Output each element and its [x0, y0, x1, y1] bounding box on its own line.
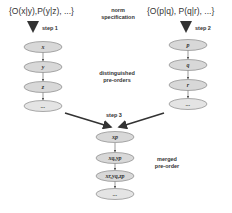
merged-node-ellipsis: ...: [96, 189, 134, 200]
right-preorder-chain: p q r ...: [169, 40, 207, 110]
merged-preorder-chain: xp xq,yp xr,yq,zp ...: [96, 132, 134, 200]
right-node-r: r: [169, 80, 207, 91]
right-node-ellipsis: ...: [169, 99, 207, 110]
svg-text:y: y: [41, 64, 45, 70]
left-node-y: y: [24, 62, 62, 73]
svg-text:...: ...: [113, 191, 118, 197]
svg-text:xq,yp: xq,yp: [107, 155, 121, 161]
right-node-q: q: [169, 60, 207, 71]
left-node-z: z: [24, 82, 62, 93]
left-node-x: x: [24, 42, 62, 53]
merged-node-xq-yp: xq,yp: [96, 153, 134, 164]
svg-text:xr,yq,zp: xr,yq,zp: [104, 173, 124, 179]
left-node-ellipsis: ...: [24, 101, 62, 112]
svg-text:...: ...: [41, 103, 46, 109]
svg-text:xp: xp: [111, 134, 118, 140]
svg-text:x: x: [41, 44, 45, 50]
svg-text:q: q: [187, 62, 190, 68]
svg-text:p: p: [186, 42, 190, 48]
diagram-canvas: x y z ... p q r: [0, 0, 232, 213]
merged-node-xr-yq-zp: xr,yq,zp: [96, 171, 134, 182]
svg-text:...: ...: [186, 101, 191, 107]
left-preorder-chain: x y z ...: [24, 42, 62, 112]
merged-node-xp: xp: [96, 132, 134, 143]
right-node-p: p: [169, 40, 207, 51]
step-3-merge-arrows-icon: [65, 113, 164, 127]
